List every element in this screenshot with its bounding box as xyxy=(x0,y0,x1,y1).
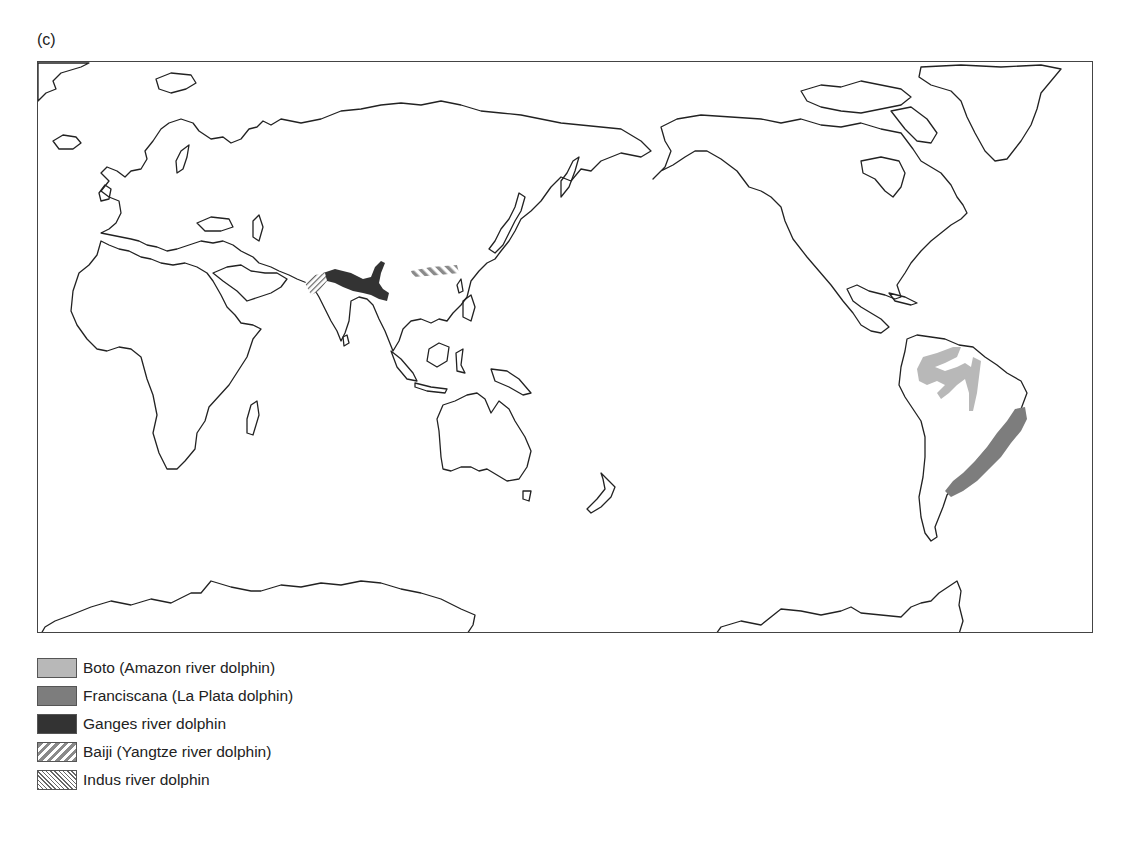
kamchatka-outline xyxy=(561,157,579,197)
sumatra-outline xyxy=(391,351,417,381)
legend: Boto (Amazon river dolphin) Franciscana … xyxy=(37,656,293,796)
baltic-outline xyxy=(176,145,189,173)
black-sea-outline xyxy=(197,217,233,231)
arabia-outline xyxy=(213,265,287,301)
borneo-outline xyxy=(427,343,449,367)
tasmania-outline xyxy=(523,491,531,501)
eurasia-outline xyxy=(101,101,651,351)
taiwan-outline xyxy=(457,279,463,293)
world-map xyxy=(37,61,1093,633)
arctic-archipelago-outline xyxy=(801,81,911,113)
swatch-indus xyxy=(37,770,77,790)
range-boto xyxy=(917,347,981,411)
swatch-franciscana xyxy=(37,686,77,706)
legend-label: Ganges river dolphin xyxy=(83,715,226,733)
panel-label: (c) xyxy=(37,31,56,49)
range-baiji xyxy=(411,265,459,277)
legend-item-baiji: Baiji (Yangtze river dolphin) xyxy=(37,740,293,764)
range-ganges xyxy=(323,261,389,301)
caspian-outline xyxy=(253,215,263,241)
swatch-baiji xyxy=(37,742,77,762)
swatch-boto xyxy=(37,658,77,678)
legend-label: Indus river dolphin xyxy=(83,771,210,789)
antarctica-east-outline xyxy=(716,581,963,633)
australia-outline xyxy=(437,393,531,481)
svalbard-outline xyxy=(156,73,196,93)
legend-item-indus: Indus river dolphin xyxy=(37,768,293,792)
legend-label: Boto (Amazon river dolphin) xyxy=(83,659,275,677)
baffin-island-outline xyxy=(891,107,937,143)
sulawesi-outline xyxy=(456,349,465,373)
range-indus xyxy=(305,273,327,295)
legend-label: Baiji (Yangtze river dolphin) xyxy=(83,743,271,761)
new-zealand-outline xyxy=(587,473,615,513)
legend-item-boto: Boto (Amazon river dolphin) xyxy=(37,656,293,680)
range-franciscana xyxy=(945,407,1027,497)
legend-label: Franciscana (La Plata dolphin) xyxy=(83,687,293,705)
hudson-bay-outline xyxy=(861,157,905,197)
cuba-outline xyxy=(889,293,917,305)
madagascar-outline xyxy=(247,401,259,435)
north-america-outline xyxy=(653,115,967,333)
british-isles-outline xyxy=(99,185,111,201)
java-outline xyxy=(415,383,447,393)
new-guinea-outline xyxy=(491,369,531,395)
sri-lanka-outline xyxy=(343,335,349,346)
africa-outline xyxy=(71,241,261,469)
legend-item-franciscana: Franciscana (La Plata dolphin) xyxy=(37,684,293,708)
legend-item-ganges: Ganges river dolphin xyxy=(37,712,293,736)
iceland-outline xyxy=(53,135,81,149)
antarctica-west-outline xyxy=(41,581,475,633)
swatch-ganges xyxy=(37,714,77,734)
philippines-outline xyxy=(463,295,475,321)
greenland-outline xyxy=(919,65,1061,161)
greenland-west-outline xyxy=(38,63,89,101)
